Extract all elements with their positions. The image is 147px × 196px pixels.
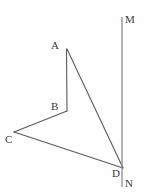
segment-ab (67, 49, 68, 111)
vertex-label-a: A (51, 40, 59, 51)
vertex-label-b: B (51, 101, 58, 112)
vertex-label-d: D (112, 168, 120, 179)
line-endpoint-label-n: N (125, 178, 133, 189)
line-endpoint-label-m: M (125, 14, 135, 25)
segment-cd (14, 132, 123, 168)
geometry-figure: A B C D M N (0, 0, 147, 196)
geometry-canvas (0, 0, 147, 196)
segment-da (67, 49, 123, 168)
vertex-label-c: C (5, 134, 12, 145)
segment-bc (14, 111, 67, 132)
